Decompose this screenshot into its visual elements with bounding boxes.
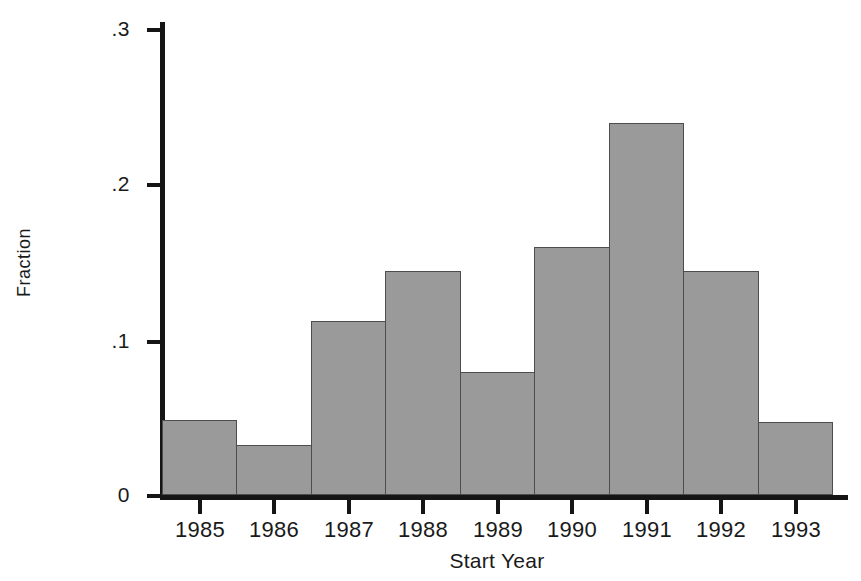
x-tick-mark-1991: [645, 500, 649, 514]
bar-1993: [758, 422, 833, 495]
x-tick-mark-1987: [347, 500, 351, 514]
x-axis-title: Start Year: [162, 549, 832, 573]
bar-1988: [385, 271, 460, 495]
y-tick-label-0: 0: [78, 483, 130, 507]
y-tick-mark-0.3: [147, 28, 161, 32]
y-tick-label-0.2: .2: [78, 172, 130, 196]
bar-1990: [534, 247, 609, 495]
bar-1992: [683, 271, 758, 495]
x-tick-mark-1985: [198, 500, 202, 514]
y-tick-mark-0.2: [147, 183, 161, 187]
x-tick-mark-1990: [570, 500, 574, 514]
x-tick-mark-1986: [272, 500, 276, 514]
y-tick-mark-0: [147, 494, 161, 498]
bar-1991: [609, 123, 684, 495]
bar-1986: [236, 445, 311, 495]
x-tick-mark-1993: [794, 500, 798, 514]
x-tick-mark-1988: [421, 500, 425, 514]
x-tick-label-1993: 1993: [751, 517, 841, 543]
x-axis-line: [160, 495, 848, 500]
x-tick-mark-1992: [719, 500, 723, 514]
x-tick-mark-1989: [496, 500, 500, 514]
y-axis-title: Fraction: [14, 193, 35, 333]
histogram-figure: .3 .2 .1 0 1985 1986 1987 1988 1989 1990…: [0, 0, 861, 581]
bar-1989: [460, 372, 535, 495]
y-tick-mark-0.1: [147, 340, 161, 344]
bar-1987: [311, 321, 386, 495]
y-tick-label-0.1: .1: [78, 329, 130, 353]
y-tick-label-0.3: .3: [78, 17, 130, 41]
bar-1985: [162, 420, 237, 495]
